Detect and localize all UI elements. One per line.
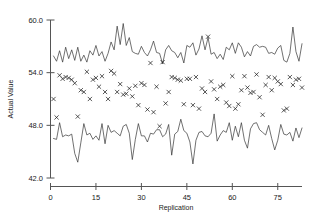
data-point-marker (103, 90, 107, 94)
data-point-marker (288, 75, 292, 79)
y-tick-label: 60.0 (28, 16, 43, 25)
data-point-marker (151, 110, 155, 114)
data-point-marker (112, 71, 116, 75)
data-point-marker (121, 93, 125, 97)
x-axis: 01530456075 (48, 183, 302, 202)
data-point-marker (291, 83, 295, 87)
x-tick-group: 01530456075 (48, 183, 282, 202)
y-tick-label: 48.0 (28, 121, 43, 130)
data-point-marker (54, 115, 58, 119)
data-point-marker (300, 85, 304, 89)
data-point-marker (164, 101, 168, 105)
data-point-marker (115, 90, 119, 94)
data-point-marker (124, 92, 128, 96)
x-tick-label: 15 (92, 193, 100, 202)
x-tick-label: 30 (137, 193, 145, 202)
x-tick-label: 60 (228, 193, 236, 202)
data-point-marker (85, 70, 89, 74)
y-axis: 42.048.054.060.0 (28, 16, 54, 183)
data-point-marker (106, 97, 110, 101)
data-point-marker (157, 124, 161, 128)
data-point-marker (209, 79, 213, 83)
series-line-lower-limit (54, 114, 302, 164)
data-point-marker (294, 78, 298, 82)
data-point-marker (88, 97, 92, 101)
data-point-marker (51, 97, 55, 101)
data-point-marker (227, 104, 231, 108)
data-point-marker (257, 95, 261, 99)
data-point-marker (182, 102, 186, 106)
scatter-plot: 42.048.054.060.0 01530456075 Replication… (0, 0, 315, 219)
data-point-marker (267, 75, 271, 79)
chart-container: 42.048.054.060.0 01530456075 Replication… (0, 0, 315, 219)
data-point-marker (133, 84, 137, 88)
data-point-marker (127, 86, 131, 90)
data-point-marker (194, 75, 198, 79)
data-point-marker (191, 103, 195, 107)
data-point-marker (261, 113, 265, 117)
data-point-marker (254, 72, 258, 76)
data-point-marker (215, 97, 219, 101)
x-tick-label: 45 (183, 193, 191, 202)
data-point-marker (203, 90, 207, 94)
data-point-marker (100, 74, 104, 78)
data-point-marker (197, 107, 201, 111)
data-point-marker (279, 82, 283, 86)
y-tick-label: 42.0 (28, 174, 43, 183)
data-point-marker (118, 82, 122, 86)
data-point-marker (233, 107, 237, 111)
data-point-marker (245, 85, 249, 89)
data-point-marker (251, 90, 255, 94)
y-tick-label: 54.0 (28, 68, 43, 77)
data-point-marker (188, 77, 192, 81)
data-point-marker (145, 107, 149, 111)
x-tick-label: 0 (48, 193, 52, 202)
data-point-marker (179, 78, 183, 82)
series-layer (51, 24, 304, 164)
data-point-marker (73, 81, 77, 85)
data-point-marker (230, 74, 234, 78)
data-point-marker (170, 75, 174, 79)
data-point-marker (297, 77, 301, 81)
data-point-marker (236, 102, 240, 106)
data-point-marker (264, 83, 268, 87)
y-axis-title: Actual Value (7, 80, 14, 119)
data-point-marker (242, 74, 246, 78)
data-point-marker (270, 88, 274, 92)
data-point-marker (167, 90, 171, 94)
data-point-marker (248, 91, 252, 95)
data-point-marker (136, 103, 140, 107)
data-point-marker (76, 114, 80, 118)
x-axis-title: Replication (159, 204, 194, 212)
x-tick-label: 75 (274, 193, 282, 202)
data-point-marker (97, 85, 101, 89)
data-point-marker (239, 88, 243, 92)
series-line-upper-limit (54, 24, 302, 64)
data-point-marker (148, 61, 152, 65)
data-point-marker (212, 87, 216, 91)
data-point-marker (130, 94, 134, 98)
data-point-marker (154, 85, 158, 89)
